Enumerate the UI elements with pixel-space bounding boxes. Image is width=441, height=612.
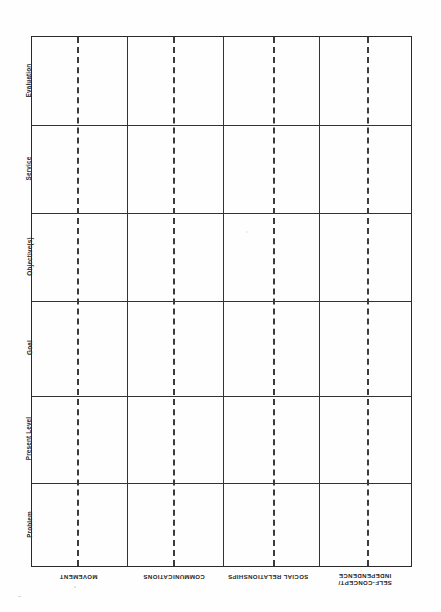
cell-present-level-self-concept-left[interactable]: [319, 396, 367, 483]
cell-evaluation-movement-right[interactable]: [77, 37, 127, 125]
cell-evaluation-self-concept-left[interactable]: [319, 37, 367, 125]
cell-service-social-relationships-right[interactable]: [273, 125, 319, 213]
cell-evaluation-self-concept-right[interactable]: [367, 37, 413, 125]
cell-goal-movement-left[interactable]: [32, 301, 77, 396]
column-label-self-concept-line-2: INDEPENDENCE: [318, 572, 412, 579]
cell-problem-movement-left[interactable]: [32, 483, 77, 568]
cell-service-movement-right[interactable]: [77, 125, 127, 213]
cell-evaluation-social-relationships-left[interactable]: [223, 37, 273, 125]
cell-evaluation-movement-left[interactable]: [32, 37, 77, 125]
cell-objectives-social-relationships-right[interactable]: [273, 213, 319, 301]
cell-goal-movement-right[interactable]: [77, 301, 127, 396]
cell-evaluation-communications-right[interactable]: [173, 37, 223, 125]
row-label-goal-text: Goal: [26, 340, 33, 355]
column-label-self-concept-independence: SELF-CONCEPT/ INDEPENDENCE: [318, 572, 412, 587]
cell-present-level-movement-right[interactable]: [77, 396, 127, 483]
cell-present-level-movement-left[interactable]: [32, 396, 77, 483]
cell-goal-communications-left[interactable]: [127, 301, 173, 396]
cell-objectives-self-concept-right[interactable]: [367, 213, 413, 301]
scanned-page: Evaluation Service Objective(s) Goal Pre…: [0, 0, 441, 612]
cell-present-level-social-relationships-left[interactable]: [223, 396, 273, 483]
row-label-evaluation-text: Evaluation: [26, 63, 33, 97]
cell-present-level-social-relationships-right[interactable]: [273, 396, 319, 483]
cell-goal-self-concept-left[interactable]: [319, 301, 367, 396]
cell-problem-communications-left[interactable]: [127, 483, 173, 568]
cell-service-social-relationships-left[interactable]: [223, 125, 273, 213]
cell-present-level-communications-left[interactable]: [127, 396, 173, 483]
scan-speck: [18, 596, 21, 597]
cell-goal-communications-right[interactable]: [173, 301, 223, 396]
column-label-social-relationships-text: SOCIAL RELATIONSHIPS: [218, 574, 318, 581]
cell-problem-communications-right[interactable]: [173, 483, 223, 568]
cell-objectives-communications-right[interactable]: [173, 213, 223, 301]
cell-service-movement-left[interactable]: [32, 125, 77, 213]
row-label-objectives-text: Objective(s): [26, 237, 33, 275]
cell-problem-self-concept-left[interactable]: [319, 483, 367, 568]
column-label-movement: MOVEMENT: [31, 574, 126, 581]
cell-problem-self-concept-right[interactable]: [367, 483, 413, 568]
cell-goal-self-concept-right[interactable]: [367, 301, 413, 396]
cell-service-communications-left[interactable]: [127, 125, 173, 213]
cell-present-level-communications-right[interactable]: [173, 396, 223, 483]
column-label-self-concept-line-1: SELF-CONCEPT/: [318, 580, 412, 587]
cell-goal-social-relationships-right[interactable]: [273, 301, 319, 396]
column-label-communications: COMMUNICATIONS: [126, 574, 222, 581]
cell-service-self-concept-left[interactable]: [319, 125, 367, 213]
cell-problem-social-relationships-left[interactable]: [223, 483, 273, 568]
cell-objectives-communications-left[interactable]: [127, 213, 173, 301]
column-label-movement-text: MOVEMENT: [31, 574, 126, 581]
cell-evaluation-communications-left[interactable]: [127, 37, 173, 125]
cell-objectives-movement-left[interactable]: [32, 213, 77, 301]
cell-evaluation-social-relationships-right[interactable]: [273, 37, 319, 125]
column-label-social-relationships: SOCIAL RELATIONSHIPS: [218, 574, 318, 581]
cell-service-self-concept-right[interactable]: [367, 125, 413, 213]
cell-objectives-social-relationships-left[interactable]: [223, 213, 273, 301]
cell-problem-social-relationships-right[interactable]: [273, 483, 319, 568]
cell-objectives-self-concept-left[interactable]: [319, 213, 367, 301]
cell-goal-social-relationships-left[interactable]: [223, 301, 273, 396]
cell-problem-movement-right[interactable]: [77, 483, 127, 568]
planning-matrix: [31, 36, 412, 567]
cell-present-level-self-concept-right[interactable]: [367, 396, 413, 483]
column-label-communications-text: COMMUNICATIONS: [126, 574, 222, 581]
row-label-present-level-text: Present Level: [26, 417, 33, 461]
cell-objectives-movement-right[interactable]: [77, 213, 127, 301]
row-label-problem-text: Problem: [26, 511, 33, 538]
scan-speck: [74, 586, 76, 588]
row-label-service-text: Service: [26, 156, 33, 180]
cell-service-communications-right[interactable]: [173, 125, 223, 213]
